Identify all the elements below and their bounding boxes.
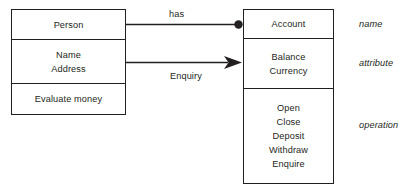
operation-item: Evaluate money <box>35 92 102 106</box>
attribute-item: Address <box>51 62 85 76</box>
class-attributes-compartment-account: Balance Currency <box>244 39 333 89</box>
class-attributes-compartment-person: Name Address <box>12 40 125 84</box>
connector-enquiry <box>126 56 242 69</box>
uml-class-diagram: Person Name Address Evaluate money Accou… <box>0 0 403 195</box>
class-operations-compartment-account: Open Close Deposit Withdraw Enquire <box>244 89 333 183</box>
attribute-item: Balance <box>272 50 306 64</box>
operation-item: Enquire <box>272 157 304 171</box>
annotation-attribute: attribute <box>359 58 393 69</box>
annotation-name: name <box>359 19 382 30</box>
class-box-person[interactable]: Person Name Address Evaluate money <box>11 9 126 115</box>
operation-item: Deposit <box>273 129 305 143</box>
connector-label-enquiry: Enquiry <box>170 71 202 82</box>
operation-item: Close <box>277 115 301 129</box>
operation-item: Withdraw <box>269 143 308 157</box>
class-box-account[interactable]: Account Balance Currency Open Close Depo… <box>243 9 334 184</box>
operation-item: Open <box>277 101 300 115</box>
attribute-item: Name <box>56 48 81 62</box>
class-operations-compartment-person: Evaluate money <box>12 84 125 114</box>
class-name-compartment-person: Person <box>12 10 125 40</box>
connector-has <box>126 20 243 28</box>
annotation-operation: operation <box>359 120 398 131</box>
attribute-item: Currency <box>269 64 307 78</box>
class-name-account: Account <box>272 17 306 31</box>
filled-circle-icon <box>234 20 242 28</box>
class-name-compartment-account: Account <box>244 10 333 39</box>
class-name-person: Person <box>54 18 84 32</box>
filled-arrow-icon <box>224 56 242 69</box>
connector-label-has: has <box>169 9 184 20</box>
